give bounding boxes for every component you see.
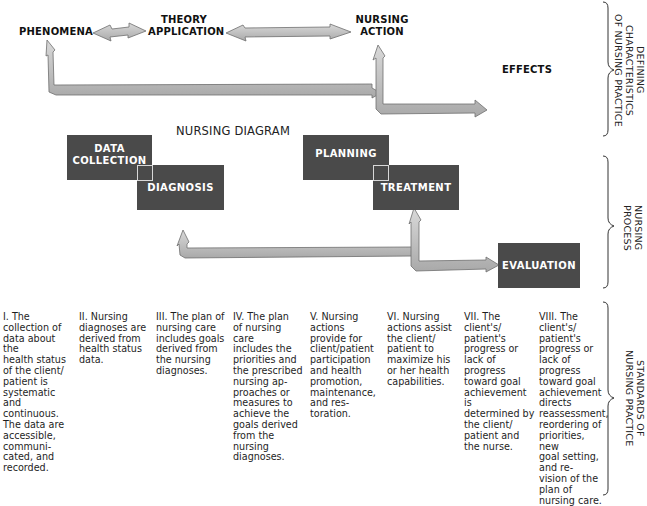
brace-icon	[603, 156, 614, 288]
standard-3: III. The plan of nursing care includes g…	[156, 312, 228, 377]
nursing-process-label: NURSING PROCESS	[620, 196, 644, 260]
standard-8: VIII. The client's/ patient's progress o…	[539, 312, 603, 506]
brace-icon	[603, 302, 614, 495]
standard-6: VI. Nursing actions assist the client/ p…	[387, 312, 459, 388]
defining-characteristics-label: DEFINING CHARACTERISTICS OF NURSING PRAC…	[618, 6, 646, 134]
standard-1: I. The collection of data about the heal…	[3, 312, 73, 474]
standard-5: V. Nursing actions provide for client/pa…	[310, 312, 380, 420]
standard-4: IV. The plan of nursing care includes th…	[233, 312, 305, 463]
standards-label: STANDARDS OF NURSING PRACTICE	[618, 340, 646, 456]
standard-2: II. Nursing diagnoses are derived from h…	[79, 312, 149, 366]
standard-7: VII. The client's/ patient's progress or…	[464, 312, 536, 452]
